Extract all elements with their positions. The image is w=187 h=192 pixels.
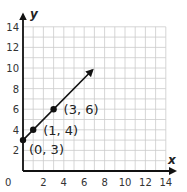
y-tick-label: 8 (13, 84, 19, 95)
x-tick-label: 2 (40, 177, 46, 188)
point-label: (0, 3) (29, 142, 64, 157)
y-tick-label: 4 (13, 125, 19, 136)
y-tick-label: 12 (6, 42, 19, 53)
y-tick-label: 2 (13, 145, 19, 156)
x-tick-label: 10 (119, 177, 132, 188)
x-tick-label: 14 (159, 177, 172, 188)
origin-label: 0 (5, 177, 11, 188)
x-tick-label: 6 (81, 177, 87, 188)
x-tick-label: 12 (139, 177, 152, 188)
coordinate-plane-chart: 24681012142468101214 (0, 3)(1, 4)(3, 6) … (0, 0, 187, 192)
point-label: (1, 4) (43, 123, 78, 138)
x-axis-label: x (167, 153, 177, 167)
point-label: (3, 6) (64, 102, 99, 117)
data-point (30, 127, 36, 133)
x-tick-label: 4 (61, 177, 67, 188)
y-axis-label: y (30, 7, 39, 21)
x-tick-label: 8 (101, 177, 107, 188)
y-tick-label: 10 (6, 63, 19, 74)
data-point (20, 137, 26, 143)
y-tick-label: 6 (13, 104, 19, 115)
data-point (50, 106, 56, 112)
y-tick-label: 14 (6, 22, 19, 33)
